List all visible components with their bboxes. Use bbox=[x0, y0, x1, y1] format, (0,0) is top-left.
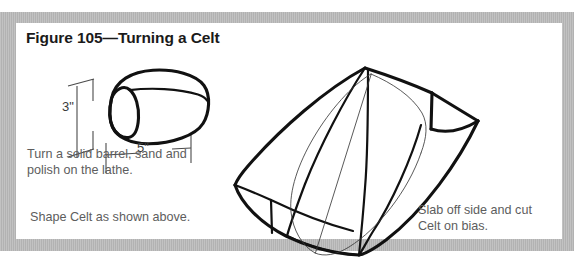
caption-shape-celt: Shape Celt as shown above. bbox=[30, 210, 190, 226]
barrel-outline bbox=[110, 70, 209, 144]
dimension-height-label: 3" bbox=[62, 99, 74, 114]
dimension-height bbox=[68, 79, 94, 157]
caption-turn-barrel: Turn a solid barrel, sand and polish on … bbox=[27, 147, 187, 178]
figure-frame: Figure 105—Turning a Celt bbox=[0, 0, 574, 259]
figure-card: Figure 105—Turning a Celt bbox=[16, 23, 562, 239]
caption-slab-off-side: Slab off side and cut Celt on bias. bbox=[418, 203, 532, 234]
